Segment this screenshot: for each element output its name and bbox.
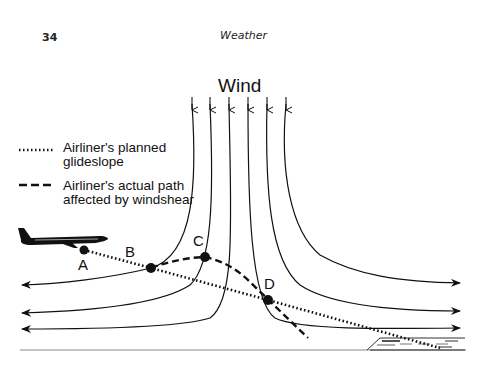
point-c-label: C	[193, 232, 204, 249]
planned-glideslope	[84, 250, 440, 348]
legend-item-actual-path: Airliner's actual path affected by winds…	[63, 179, 194, 207]
legend-text-line: affected by windshear	[63, 193, 194, 207]
legend-item-planned-glideslope: Airliner's planned glideslope	[63, 141, 166, 169]
path-points	[80, 246, 274, 306]
point-d-marker	[263, 295, 273, 305]
legend-text-line: Airliner's actual path	[63, 179, 194, 193]
wind-label: Wind	[218, 75, 261, 97]
point-a-marker	[80, 246, 89, 255]
point-d-label: D	[264, 275, 275, 292]
actual-path	[151, 257, 308, 338]
legend-text-line: glideslope	[63, 155, 166, 169]
wind-arrows	[192, 97, 286, 110]
legend-text-line: Airliner's planned	[63, 141, 166, 155]
point-b-marker	[146, 263, 156, 273]
point-c-marker	[200, 252, 210, 262]
point-a-label: A	[78, 256, 88, 273]
point-b-label: B	[125, 243, 135, 260]
streamlines-left	[22, 104, 231, 329]
runway	[367, 338, 465, 350]
airliner-icon	[18, 228, 108, 248]
streamlines-right	[248, 104, 460, 329]
